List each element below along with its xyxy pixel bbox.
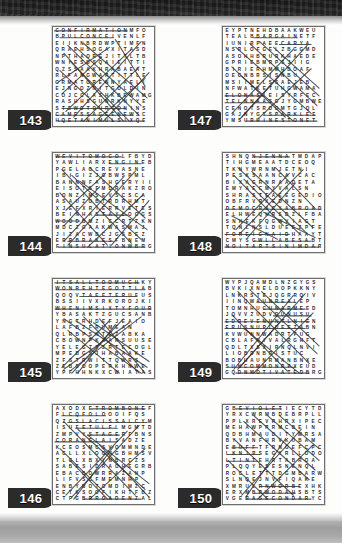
word-strike-line <box>232 216 278 239</box>
grid-cell: T <box>80 154 87 160</box>
grid-cell: E <box>298 364 304 370</box>
grid-cell: L <box>267 325 273 331</box>
grid-cell: H <box>264 458 271 464</box>
grid-cell: K <box>127 186 134 192</box>
grid-cell: I <box>120 484 127 490</box>
grid-cell: C <box>94 445 101 451</box>
grid-cell: W <box>250 425 257 431</box>
grid-cell: A <box>87 238 94 244</box>
grid-cell: A <box>270 193 277 199</box>
grid-cell: X <box>54 206 61 212</box>
grid-cell: J <box>60 86 66 92</box>
grid-cell: M <box>133 173 140 179</box>
grid-cell: E <box>122 112 128 118</box>
grid-cell: S <box>113 438 120 444</box>
grid-cell: E <box>297 484 304 490</box>
grid-cell: F <box>67 325 74 331</box>
grid-cell: O <box>100 154 107 160</box>
grid-cell: T <box>267 86 273 92</box>
grid-cell: K <box>231 451 238 457</box>
grid-cell: M <box>141 93 147 99</box>
grid-cell: Y <box>290 432 297 438</box>
grid-cell: E <box>267 41 273 47</box>
grid-cell: S <box>257 497 264 503</box>
grid-cell: E <box>280 299 286 305</box>
grid-cell: H <box>255 119 261 125</box>
grid-cell: P <box>224 419 231 425</box>
grid-cell: V <box>113 167 120 173</box>
grid-cell: Z <box>133 438 140 444</box>
grid-cell: R <box>292 293 298 299</box>
grid-cell: E <box>237 406 244 412</box>
grid-cell: N <box>255 332 261 338</box>
grid-cell: F <box>134 41 140 47</box>
grid-cell: Q <box>237 464 244 470</box>
grid-cell: D <box>141 47 147 53</box>
grid-cell: O <box>113 412 120 418</box>
grid-cell: N <box>74 306 81 312</box>
grid-cell: L <box>73 34 79 40</box>
grid-cell <box>316 180 323 186</box>
grid-cell: S <box>74 312 81 318</box>
grid-cell: T <box>224 99 230 105</box>
grid-cell: E <box>120 180 127 186</box>
grid-cell: P <box>94 364 101 370</box>
word-search-grid-143: CONFIRMATIONMFOBPULCONCEIVENLFEIIKNBRDWP… <box>52 26 155 127</box>
grid-cell: B <box>304 325 310 331</box>
grid-cell: N <box>107 451 114 457</box>
grid-cell: E <box>311 54 317 60</box>
grid-cell: N <box>267 119 273 125</box>
word-search-grid-150: GBEVIOLETIECYTDYRXCWRMBDEBRPLLPPLXREVRHR… <box>222 404 325 505</box>
grid-cell: E <box>255 80 261 86</box>
grid-cell: R <box>54 99 60 105</box>
grid-cell: O <box>87 412 94 418</box>
grid-cell: G <box>303 219 310 225</box>
grid-cell: D <box>277 412 284 418</box>
grid-cell: S <box>146 206 153 212</box>
grid-cell: O <box>236 93 242 99</box>
grid-cell: O <box>91 106 97 112</box>
grid-cell: T <box>261 371 267 377</box>
grid-cell: B <box>113 458 120 464</box>
grid-cell: I <box>100 219 107 225</box>
grid-cell: L <box>236 338 242 344</box>
grid-cell: Z <box>286 280 292 286</box>
grid-cell: J <box>292 80 298 86</box>
grid-cell: E <box>122 93 128 99</box>
grid-cell: I <box>67 173 74 179</box>
grid-cell: N <box>113 160 120 166</box>
grid-cell: S <box>280 119 286 125</box>
grid-cell: A <box>244 425 251 431</box>
grid-cell: C <box>120 193 127 199</box>
grid-cell <box>316 199 323 205</box>
grid-cell: H <box>264 212 271 218</box>
grid-cell: T <box>94 280 101 286</box>
grid-cell: E <box>264 497 271 503</box>
grid-cell: N <box>297 167 304 173</box>
grid-cell <box>147 86 153 92</box>
grid-cell: L <box>146 345 153 351</box>
grid-cell: S <box>230 47 236 53</box>
grid-cell: E <box>61 212 68 218</box>
grid-cell: A <box>249 93 255 99</box>
word-strike-line <box>262 292 319 346</box>
grid-cell: D <box>274 286 280 292</box>
letter-matrix: ITSALLTOOMUCHKYWONREHTEGOTTLABQOQVTAEETE… <box>54 280 153 377</box>
grid-cell: X <box>80 406 87 412</box>
grid-cell: H <box>87 286 94 292</box>
grid-cell: B <box>80 484 87 490</box>
grid-cell: B <box>120 406 127 412</box>
grid-cell: S <box>280 351 286 357</box>
word-strike-line <box>115 40 145 87</box>
grid-cell: A <box>298 86 304 92</box>
grid-cell: E <box>264 451 271 457</box>
grid-cell: C <box>94 167 101 173</box>
grid-cell: D <box>107 186 114 192</box>
grid-cell: I <box>277 245 284 251</box>
grid-cell: R <box>297 206 304 212</box>
grid-cell: F <box>54 412 61 418</box>
grid-cell: R <box>267 34 273 40</box>
grid-cell: V <box>230 332 236 338</box>
grid-cell: E <box>100 206 107 212</box>
grid-cell: O <box>113 154 120 160</box>
